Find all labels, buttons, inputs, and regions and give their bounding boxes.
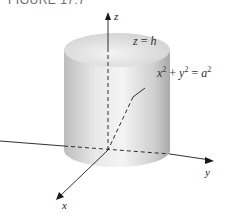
z-axis-label: z [113,10,119,22]
top-plane-label: z = h [132,34,156,48]
cylinder-diagram: z y x z = h x2 + y2 = a2 [0,0,236,219]
x-axis-label: x [61,199,67,211]
y-arrow-icon [205,157,214,164]
y-axis-label: y [204,166,210,178]
z-arrow-icon [105,12,111,20]
